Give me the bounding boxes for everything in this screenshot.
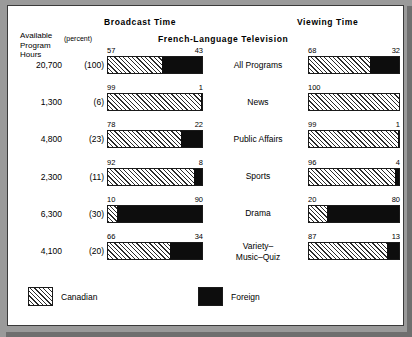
category-label-line: Sports bbox=[212, 171, 304, 182]
category-label: Sports bbox=[212, 171, 304, 182]
bar-value-canadian: 66 bbox=[107, 232, 115, 241]
window-shadow-bottom bbox=[6, 332, 412, 337]
available-hours-value: 4,100 bbox=[20, 246, 62, 256]
bar-segment-foreign bbox=[327, 206, 399, 222]
stacked-bar-viewing: 991 bbox=[308, 130, 400, 148]
bar-track bbox=[308, 56, 400, 74]
bar-value-foreign: 90 bbox=[195, 195, 203, 204]
panel-title-viewing-time: Viewing Time bbox=[297, 17, 358, 27]
available-hours-value: 4,800 bbox=[20, 134, 62, 144]
category-label: Drama bbox=[212, 208, 304, 219]
category-label-line: Public Affairs bbox=[212, 134, 304, 145]
category-label-line: All Programs bbox=[212, 60, 304, 71]
available-hours-value: 20,700 bbox=[20, 60, 62, 70]
bar-segment-canadian bbox=[108, 169, 194, 185]
percent-value: (6) bbox=[64, 97, 104, 107]
chart-frame: Broadcast Time Viewing Time French-Langu… bbox=[7, 5, 404, 326]
bar-segment-foreign bbox=[181, 131, 202, 147]
bar-track bbox=[107, 242, 203, 260]
bar-value-canadian: 87 bbox=[308, 232, 316, 241]
category-label: News bbox=[212, 97, 304, 108]
bar-track bbox=[107, 93, 203, 111]
bar-segment-foreign bbox=[117, 206, 202, 222]
bar-segment-foreign bbox=[162, 57, 202, 73]
bar-segment-canadian bbox=[309, 243, 387, 259]
bar-value-foreign: 43 bbox=[195, 46, 203, 55]
bar-segment-canadian bbox=[309, 206, 327, 222]
percent-value: (11) bbox=[64, 172, 104, 182]
bar-track bbox=[308, 130, 400, 148]
heading-line-3: Hours bbox=[20, 50, 102, 60]
bar-value-canadian: 68 bbox=[308, 46, 316, 55]
category-label-line: Variety– bbox=[212, 241, 304, 252]
category-label-line: Drama bbox=[212, 208, 304, 219]
bar-value-foreign: 1 bbox=[199, 83, 203, 92]
bar-track bbox=[308, 242, 400, 260]
bar-segment-canadian bbox=[108, 57, 162, 73]
bar-segment-canadian bbox=[108, 131, 181, 147]
bar-track bbox=[308, 93, 400, 111]
bar-value-canadian: 20 bbox=[308, 195, 316, 204]
bar-segment-canadian bbox=[309, 169, 395, 185]
bar-track bbox=[107, 56, 203, 74]
bar-segment-canadian bbox=[108, 243, 170, 259]
stacked-bar-broadcast: 1090 bbox=[107, 205, 203, 223]
bar-segment-foreign bbox=[170, 243, 202, 259]
bar-value-foreign: 22 bbox=[195, 120, 203, 129]
category-label: Variety–Music–Quiz bbox=[212, 241, 304, 263]
bar-value-foreign: 80 bbox=[392, 195, 400, 204]
percent-value: (23) bbox=[64, 134, 104, 144]
stacked-bar-broadcast: 928 bbox=[107, 168, 203, 186]
bar-segment-foreign bbox=[387, 243, 399, 259]
bar-segment-foreign bbox=[194, 169, 202, 185]
legend-swatch-foreign bbox=[198, 287, 223, 306]
bar-value-canadian: 96 bbox=[308, 158, 316, 167]
bar-segment-foreign bbox=[398, 131, 399, 147]
table-row: 1,300(6) bbox=[20, 97, 104, 113]
bar-segment-foreign bbox=[370, 57, 399, 73]
table-row: 4,800(23) bbox=[20, 134, 104, 150]
stacked-bar-broadcast: 6634 bbox=[107, 242, 203, 260]
bar-value-canadian: 78 bbox=[107, 120, 115, 129]
bar-value-foreign: 4 bbox=[396, 158, 400, 167]
stacked-bar-viewing: 8713 bbox=[308, 242, 400, 260]
percent-value: (100) bbox=[64, 60, 104, 70]
bar-segment-canadian bbox=[309, 57, 370, 73]
category-label: Public Affairs bbox=[212, 134, 304, 145]
percent-value: (30) bbox=[64, 209, 104, 219]
chart-title: French-Language Television bbox=[158, 34, 288, 44]
stacked-bar-viewing: 964 bbox=[308, 168, 400, 186]
stacked-bar-viewing: 2080 bbox=[308, 205, 400, 223]
bar-value-foreign: 32 bbox=[392, 46, 400, 55]
bar-value-foreign: 34 bbox=[195, 232, 203, 241]
window-shadow-right bbox=[407, 6, 412, 337]
bar-value-canadian: 10 bbox=[107, 195, 115, 204]
table-row: 2,300(11) bbox=[20, 172, 104, 188]
bar-track bbox=[308, 168, 400, 186]
bar-track bbox=[308, 205, 400, 223]
stacked-bar-viewing: 6832 bbox=[308, 56, 400, 74]
category-label-line: Music–Quiz bbox=[212, 252, 304, 263]
bar-track bbox=[107, 205, 203, 223]
stacked-bar-broadcast: 991 bbox=[107, 93, 203, 111]
stacked-bar-viewing: 100 bbox=[308, 93, 400, 111]
bar-value-canadian: 99 bbox=[308, 120, 316, 129]
bar-segment-canadian bbox=[108, 94, 201, 110]
category-label: All Programs bbox=[212, 60, 304, 71]
stacked-bar-broadcast: 7822 bbox=[107, 130, 203, 148]
legend-label-foreign: Foreign bbox=[231, 292, 260, 302]
percent-caption: (percent) bbox=[64, 35, 92, 42]
legend: Canadian Foreign bbox=[28, 287, 328, 309]
available-hours-value: 2,300 bbox=[20, 172, 62, 182]
bar-segment-canadian bbox=[309, 131, 398, 147]
stacked-bar-broadcast: 5743 bbox=[107, 56, 203, 74]
available-hours-value: 1,300 bbox=[20, 97, 62, 107]
legend-label-canadian: Canadian bbox=[61, 292, 97, 302]
percent-value: (20) bbox=[64, 246, 104, 256]
bar-value-canadian: 57 bbox=[107, 46, 115, 55]
bar-value-foreign: 13 bbox=[392, 232, 400, 241]
available-hours-value: 6,300 bbox=[20, 209, 62, 219]
category-label-line: News bbox=[212, 97, 304, 108]
bar-value-foreign: 8 bbox=[199, 158, 203, 167]
table-row: 20,700(100) bbox=[20, 60, 104, 76]
